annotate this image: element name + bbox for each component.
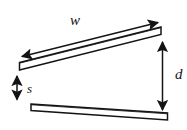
- geometry-diagram: w d s: [0, 0, 187, 130]
- distance-label: d: [175, 66, 183, 82]
- separation-label: s: [27, 81, 32, 96]
- figure-container: w d s: [0, 0, 187, 130]
- width-label: w: [70, 12, 80, 28]
